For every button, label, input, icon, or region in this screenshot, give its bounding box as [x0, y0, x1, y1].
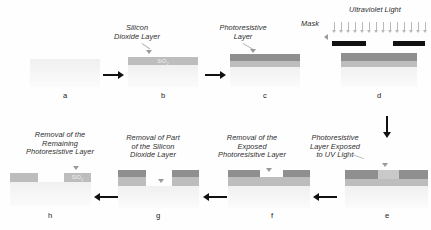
caption-silicon-dioxide-layer: Silicon Dioxide Layer: [92, 24, 182, 41]
callout-pointer-e-exposed: [382, 163, 388, 167]
panel-g-oxide-left: [118, 177, 146, 186]
callout-pointer-c-resist: [250, 49, 256, 53]
caption-mask: Mask: [290, 20, 330, 29]
panel-h-oxide-right: [64, 173, 91, 182]
panel-f-letter: f: [262, 211, 282, 220]
panel-d-mask-right: [393, 41, 425, 46]
panel-b-letter: b: [153, 91, 173, 100]
panel-d-substrate: [341, 66, 417, 87]
panel-g-resist-right: [172, 170, 199, 177]
callout-pointer-g-gap: [158, 179, 164, 183]
panel-f-oxide-layer: [228, 177, 310, 186]
caption-photoresistive-layer: Photoresistive Layer: [198, 24, 288, 41]
panel-a-letter: a: [55, 91, 75, 100]
panel-e-resist-exposed-center: [378, 170, 399, 179]
panel-f-substrate: [228, 186, 310, 208]
uv-light-arrows: [332, 22, 426, 36]
panel-h-substrate: [10, 182, 91, 206]
panel-e-resist-right: [399, 170, 428, 179]
panel-c-substrate: [230, 66, 300, 87]
panel-h-oxide-left: [10, 173, 38, 182]
panel-e-substrate: [345, 186, 428, 208]
caption-removal-part-silicon-dioxide: Removal of Part of the Silicon Dioxide L…: [105, 134, 201, 160]
panel-d-resist-layer: [341, 53, 417, 61]
panel-c-oxide-layer: [230, 61, 300, 67]
panel-h-letter: h: [40, 211, 60, 220]
panel-f-resist-left: [228, 170, 260, 177]
panel-g-substrate: [118, 186, 199, 208]
panel-b-oxide-layer: [128, 57, 198, 65]
panel-e-oxide-layer: [345, 179, 428, 186]
callout-pointer-f-gap: [266, 168, 272, 172]
panel-g-resist-left: [118, 170, 146, 177]
photolithography-diagram: a Silicon Dioxide Layer SiO2 b Photoresi…: [0, 0, 431, 230]
callout-pointer-h-oxide: [73, 166, 79, 170]
panel-d-letter: d: [369, 91, 389, 100]
caption-removal-exposed-photoresistive: Removal of the Exposed Photoresisitve La…: [198, 134, 306, 160]
panel-f-resist-right: [283, 170, 310, 177]
caption-removal-remaining-photoresistive: Removal of the Remaining Photoresistive …: [8, 131, 112, 157]
callout-pointer-d-mask: [324, 34, 328, 40]
panel-d-mask-left: [332, 41, 366, 46]
panel-d-oxide-layer: [341, 61, 417, 67]
panel-e-letter: e: [377, 211, 397, 220]
panel-a-substrate: [30, 59, 100, 87]
panel-c-resist-layer: [230, 54, 300, 61]
callout-leader-b: [142, 43, 151, 49]
panel-g-oxide-right: [172, 177, 199, 186]
panel-c-letter: c: [255, 91, 275, 100]
panel-g-letter: g: [148, 211, 168, 220]
panel-b-substrate: [128, 65, 198, 87]
panel-e-resist-left: [345, 170, 378, 179]
caption-ultraviolet-light: Ultraviolet Light: [335, 6, 415, 15]
callout-pointer-b-oxide: [146, 50, 152, 54]
